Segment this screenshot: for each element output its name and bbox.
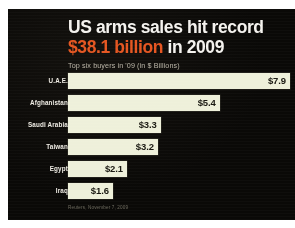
bar-row: U.A.E.$7.9 — [8, 73, 295, 95]
headline-line-2: $38.1 billion in 2009 — [68, 39, 289, 57]
bar: $1.6 — [68, 183, 113, 199]
bar: $3.2 — [68, 139, 158, 155]
bar-category-label: Iraq — [8, 183, 68, 199]
headline-accent-amount: $38.1 billion — [68, 37, 163, 57]
bar-row: Saudi Arabia$3.3 — [8, 117, 295, 139]
bar-value-label: $3.3 — [139, 117, 157, 133]
bar-row: Iraq$1.6 — [8, 183, 295, 205]
headline-line-1: US arms sales hit record — [68, 19, 289, 37]
bar-value-label: $2.1 — [105, 161, 123, 177]
bar-value-label: $3.2 — [136, 139, 154, 155]
bar: $7.9 — [68, 73, 290, 89]
bar: $5.4 — [68, 95, 220, 111]
headline-year-text: in 2009 — [163, 37, 224, 57]
bar-row: Egypt$2.1 — [8, 161, 295, 183]
arms-sales-chart-card: US arms sales hit record $38.1 billion i… — [8, 9, 295, 220]
chart-subtitle: Top six buyers in '09 (in $ Billions) — [68, 61, 289, 70]
bar-category-label: Afghanistan — [8, 95, 68, 111]
bar: $2.1 — [68, 161, 127, 177]
bar-row: Afghanistan$5.4 — [8, 95, 295, 117]
bar-value-label: $1.6 — [91, 183, 109, 199]
bar-value-label: $7.9 — [268, 73, 286, 89]
bar-category-label: Egypt — [8, 161, 68, 177]
bar-category-label: Saudi Arabia — [8, 117, 68, 133]
chart-source-note: Reuters, November 7, 2009 — [68, 205, 128, 211]
headline-block: US arms sales hit record $38.1 billion i… — [68, 19, 289, 70]
bar-category-label: U.A.E. — [8, 73, 68, 89]
bar: $3.3 — [68, 117, 161, 133]
bar-row: Taiwan$3.2 — [8, 139, 295, 161]
bar-chart-plot: U.A.E.$7.9Afghanistan$5.4Saudi Arabia$3.… — [8, 73, 295, 205]
bar-value-label: $5.4 — [198, 95, 216, 111]
bar-category-label: Taiwan — [8, 139, 68, 155]
